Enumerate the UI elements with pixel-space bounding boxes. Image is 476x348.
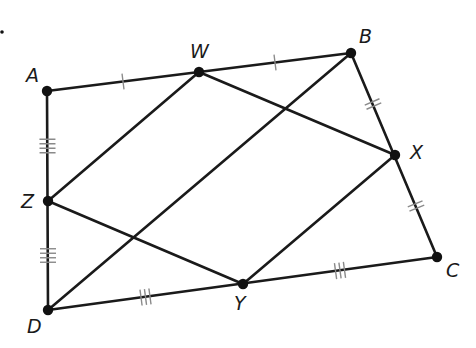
point-A — [42, 86, 52, 96]
segment-BD — [48, 53, 351, 310]
point-Z — [43, 196, 53, 206]
label-B: B — [359, 25, 372, 47]
vertex-labels: A W B X C Y D Z — [20, 25, 460, 337]
label-A: A — [24, 64, 39, 86]
point-W — [194, 67, 204, 77]
problem-marker-dot — [0, 30, 4, 34]
label-Y: Y — [234, 292, 247, 314]
segment-ZW — [48, 72, 199, 201]
point-B — [346, 48, 356, 58]
label-X: X — [409, 141, 424, 163]
diagram-edges — [47, 53, 437, 310]
quadrilateral-diagram: A W B X C Y D Z — [0, 0, 476, 348]
tick-mark-AW — [122, 74, 124, 90]
label-Z: Z — [20, 190, 35, 212]
label-C: C — [446, 259, 460, 281]
label-W: W — [190, 40, 210, 62]
tick-mark-WB — [274, 55, 276, 71]
point-Y — [238, 279, 248, 289]
point-X — [390, 150, 400, 160]
point-C — [432, 252, 442, 262]
point-D — [43, 305, 53, 315]
segment-YZ — [48, 201, 243, 284]
label-D: D — [27, 315, 42, 337]
